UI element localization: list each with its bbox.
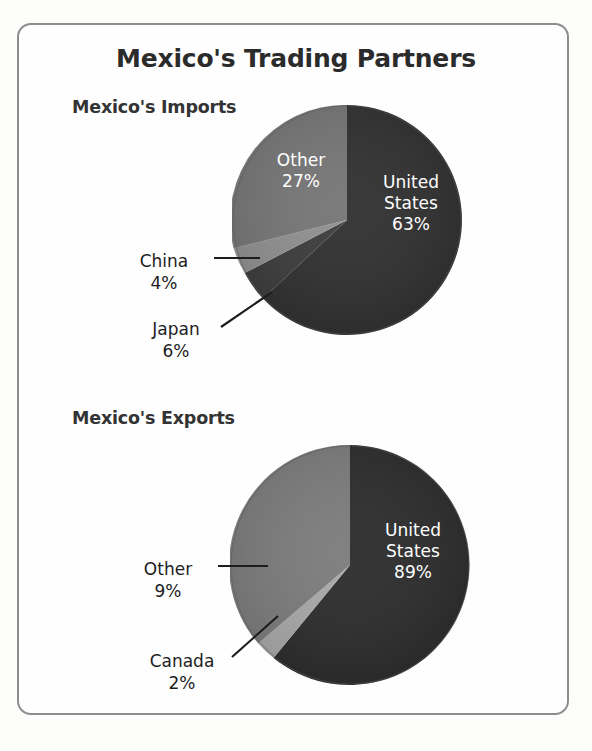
figure-root: Mexico's Trading Partners Mexico's Impor…: [0, 0, 592, 751]
exports-other-percent: 9%: [122, 580, 214, 602]
page-title: Mexico's Trading Partners: [0, 44, 592, 73]
exports-canada-percent: 2%: [128, 672, 236, 694]
imports-pie-svg: [232, 105, 462, 335]
imports-china-percent: 4%: [118, 272, 210, 294]
imports-japan-callout: Japan 6%: [130, 318, 222, 362]
imports-china-label-text: China: [140, 251, 189, 271]
imports-japan-percent: 6%: [130, 340, 222, 362]
imports-china-callout: China 4%: [118, 250, 210, 294]
imports-pie-chart: [232, 105, 462, 335]
exports-canada-callout: Canada 2%: [128, 650, 236, 694]
imports-panel-subtitle: Mexico's Imports: [72, 97, 236, 117]
exports-pie-svg: [230, 445, 470, 685]
exports-panel-subtitle: Mexico's Exports: [72, 408, 235, 428]
exports-pie-chart: [230, 445, 470, 685]
imports-japan-label-text: Japan: [152, 319, 199, 339]
exports-other-label-text: Other: [144, 559, 192, 579]
exports-other-callout: Other 9%: [122, 558, 214, 602]
exports-canada-label-text: Canada: [150, 651, 215, 671]
